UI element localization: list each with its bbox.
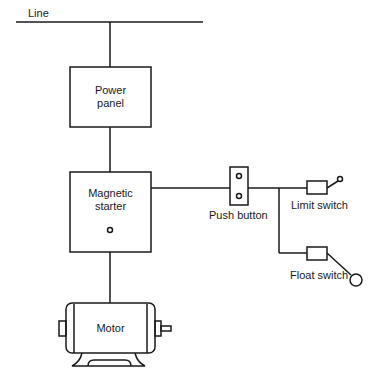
power-panel-label-line2: panel <box>70 97 151 110</box>
motor-label: Motor <box>74 322 147 335</box>
magnetic-starter-label-line1: Magnetic <box>70 187 151 200</box>
wiring-diagram <box>0 0 372 382</box>
magnetic-starter-label: Magnetic starter <box>70 187 151 213</box>
push-button-label: Push button <box>209 209 268 222</box>
power-panel-label: Power panel <box>70 84 151 110</box>
push-button-box <box>230 167 248 205</box>
power-panel-label-line1: Power <box>70 84 151 97</box>
float-switch-label: Float switch <box>290 269 348 282</box>
starter-indicator-icon <box>108 228 113 233</box>
line-label: Line <box>28 7 49 20</box>
limit-switch-arm <box>327 181 338 188</box>
push-button-contact-icon <box>237 194 242 199</box>
limit-switch-roller-icon <box>338 177 343 182</box>
limit-switch-label: Limit switch <box>291 199 348 212</box>
magnetic-starter-label-line2: starter <box>70 200 151 213</box>
push-button-contact-icon <box>237 174 242 179</box>
float-ball-icon <box>350 274 362 286</box>
float-switch-box <box>307 247 327 260</box>
limit-switch-box <box>307 181 327 194</box>
